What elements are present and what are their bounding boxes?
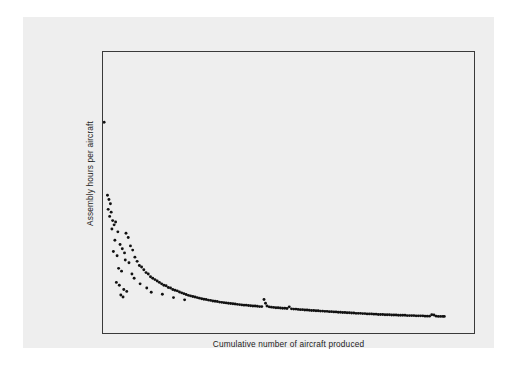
plot-frame — [102, 51, 475, 334]
x-axis-title: Cumulative number of aircraft produced — [102, 339, 475, 349]
y-axis-title: Assembly hours per aircraft — [85, 121, 95, 226]
y-axis-title-container: Assembly hours per aircraft — [85, 121, 97, 281]
figure-panel: Assembly hours per aircraft Cumulative n… — [23, 17, 494, 348]
scatter-plot-area — [103, 52, 474, 333]
